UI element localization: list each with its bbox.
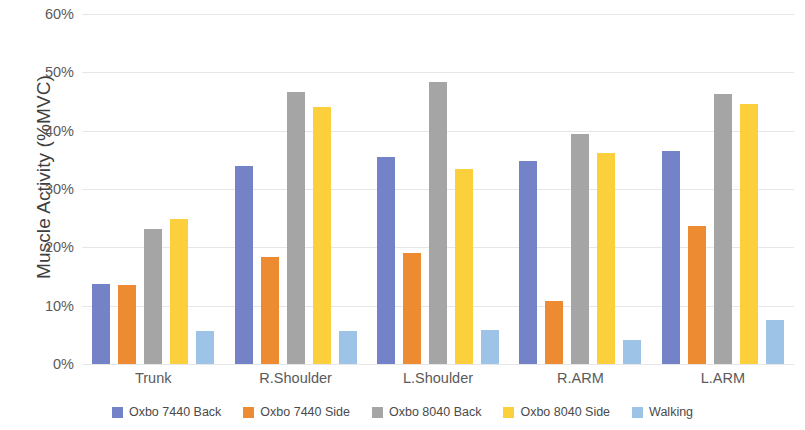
legend-item[interactable]: Oxbo 7440 Back xyxy=(112,405,221,419)
bar[interactable] xyxy=(235,166,253,364)
bar-group xyxy=(367,14,509,364)
bar-chart: Muscle Activity (%MVC) 60%50%40%30%20%10… xyxy=(0,0,805,430)
y-axis-tick-labels: 60%50%40%30%20%10%0% xyxy=(22,14,74,364)
bar-group xyxy=(509,14,651,364)
bar[interactable] xyxy=(766,320,784,364)
legend-item[interactable]: Oxbo 7440 Side xyxy=(243,405,350,419)
y-axis-tick-label: 10% xyxy=(28,298,74,314)
legend-swatch-icon xyxy=(112,407,123,418)
x-axis-tick-label: R.Shoulder xyxy=(224,370,366,386)
bar[interactable] xyxy=(339,331,357,364)
bar-group-bars xyxy=(82,14,224,364)
bar[interactable] xyxy=(519,161,537,364)
x-axis-tick-label: L.Shoulder xyxy=(367,370,509,386)
legend-label: Oxbo 7440 Side xyxy=(260,405,350,419)
bar[interactable] xyxy=(481,330,499,364)
y-axis-tick-label: 20% xyxy=(28,239,74,255)
chart-legend: Oxbo 7440 BackOxbo 7440 SideOxbo 8040 Ba… xyxy=(0,405,805,419)
bar[interactable] xyxy=(196,331,214,364)
bar[interactable] xyxy=(261,257,279,364)
legend-label: Walking xyxy=(649,405,693,419)
x-axis-tick-label: Trunk xyxy=(82,370,224,386)
bar[interactable] xyxy=(597,153,615,364)
bar-group-bars xyxy=(652,14,794,364)
legend-label: Oxbo 8040 Back xyxy=(389,405,481,419)
y-axis-tick-label: 40% xyxy=(28,123,74,139)
y-axis-tick-label: 0% xyxy=(28,356,74,372)
bar-group xyxy=(82,14,224,364)
legend-item[interactable]: Oxbo 8040 Side xyxy=(503,405,610,419)
bar-groups xyxy=(82,14,794,364)
legend-swatch-icon xyxy=(243,407,254,418)
bar-group xyxy=(652,14,794,364)
bar[interactable] xyxy=(118,285,136,364)
y-axis-tick-label: 30% xyxy=(28,181,74,197)
bar[interactable] xyxy=(714,94,732,364)
bar[interactable] xyxy=(170,219,188,364)
bar[interactable] xyxy=(545,301,563,364)
gridline xyxy=(82,364,794,365)
bar[interactable] xyxy=(287,92,305,364)
legend-swatch-icon xyxy=(632,407,643,418)
y-axis-tick-label: 60% xyxy=(28,6,74,22)
bar-group-bars xyxy=(224,14,366,364)
bar-group-bars xyxy=(367,14,509,364)
legend-item[interactable]: Oxbo 8040 Back xyxy=(372,405,481,419)
bar[interactable] xyxy=(377,157,395,364)
legend-item[interactable]: Walking xyxy=(632,405,693,419)
bar-group xyxy=(224,14,366,364)
bar-group-bars xyxy=(509,14,651,364)
legend-swatch-icon xyxy=(503,407,514,418)
bar[interactable] xyxy=(144,229,162,364)
bar[interactable] xyxy=(740,104,758,364)
legend-label: Oxbo 8040 Side xyxy=(520,405,610,419)
legend-label: Oxbo 7440 Back xyxy=(129,405,221,419)
bar[interactable] xyxy=(623,340,641,365)
bar[interactable] xyxy=(455,169,473,364)
x-axis-tick-label: L.ARM xyxy=(652,370,794,386)
bar[interactable] xyxy=(662,151,680,365)
bar[interactable] xyxy=(92,284,110,365)
legend-swatch-icon xyxy=(372,407,383,418)
bar[interactable] xyxy=(571,134,589,364)
y-axis-tick-label: 50% xyxy=(28,64,74,80)
bar[interactable] xyxy=(429,82,447,364)
x-axis-tick-labels: TrunkR.ShoulderL.ShoulderR.ARML.ARM xyxy=(82,370,794,386)
x-axis-tick-label: R.ARM xyxy=(509,370,651,386)
bar[interactable] xyxy=(688,226,706,364)
bar[interactable] xyxy=(403,253,421,364)
bar[interactable] xyxy=(313,107,331,364)
